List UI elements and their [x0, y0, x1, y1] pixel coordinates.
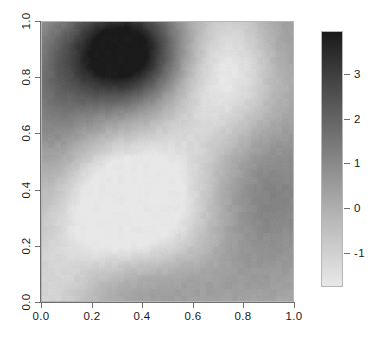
heatmap-plot-area [41, 21, 294, 302]
x-axis-tick-label: 0.4 [134, 310, 151, 322]
colorbar-tick [344, 208, 350, 209]
y-axis-tick [35, 246, 40, 247]
x-axis-tick [243, 303, 244, 308]
x-axis-tick-label: 0.8 [235, 310, 252, 322]
y-axis-tick-label: 0.4 [20, 179, 32, 201]
x-axis-tick [193, 303, 194, 308]
y-axis-tick [35, 133, 40, 134]
colorbar-tick [344, 74, 350, 75]
x-axis-line [41, 302, 295, 303]
x-axis-tick-label: 1.0 [286, 310, 303, 322]
y-axis-line [40, 21, 41, 303]
heatmap-figure: 0.00.20.40.60.81.0 0.00.20.40.60.81.0 -1… [0, 0, 380, 347]
colorbar-tick-label: 3 [354, 68, 361, 80]
colorbar-tick-label: 1 [354, 157, 361, 169]
x-axis-tick [41, 303, 42, 308]
y-axis-tick [35, 77, 40, 78]
colorbar-legend [321, 31, 343, 287]
heatmap-raster [42, 22, 294, 302]
y-axis-tick-label: 0.2 [20, 235, 32, 257]
y-axis-tick-label: 1.0 [20, 10, 32, 32]
colorbar-tick [344, 119, 350, 120]
colorbar-tick [344, 253, 350, 254]
y-axis-tick-label: 0.0 [20, 291, 32, 313]
x-axis-tick-label: 0.0 [33, 310, 50, 322]
colorbar-tick [344, 163, 350, 164]
y-axis-tick [35, 21, 40, 22]
colorbar-tick-label: 2 [354, 113, 361, 125]
x-axis-tick [142, 303, 143, 308]
y-axis-tick-label: 0.6 [20, 122, 32, 144]
y-axis-tick-label: 0.8 [20, 66, 32, 88]
colorbar-tick-label: 0 [354, 202, 361, 214]
y-axis-tick [35, 302, 40, 303]
x-axis-tick-label: 0.2 [84, 310, 101, 322]
colorbar-tick-label: -1 [354, 247, 365, 259]
x-axis-tick-label: 0.6 [185, 310, 202, 322]
x-axis-tick [92, 303, 93, 308]
y-axis-tick [35, 190, 40, 191]
colorbar-gradient [322, 32, 342, 286]
x-axis-tick [294, 303, 295, 308]
